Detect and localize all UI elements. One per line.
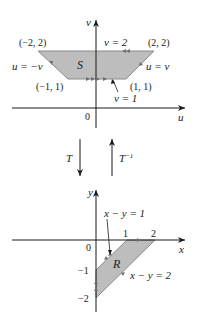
origin-label-uv: 0	[85, 111, 90, 122]
region-r-label: R	[112, 257, 121, 271]
edge-label-left: u = −v	[12, 60, 43, 72]
edge-label-lower: x − y = 2	[129, 269, 172, 281]
xy-plane: y x 0 R 1 2 −1 −2 x − y = 1 x − y = 2	[12, 186, 185, 312]
vertex-bottom-left: (−1, 1)	[36, 81, 63, 93]
edge-label-upper: x − y = 1	[103, 207, 145, 219]
x-axis-label: x	[178, 243, 184, 255]
u-axis-label: u	[178, 111, 184, 123]
t-label: T	[66, 152, 73, 164]
edge-label-right: u = v	[146, 60, 169, 72]
uv-plane: v u 0 S (−2, 2) (2, 2) (−1, 1) (1, 1) v …	[12, 16, 185, 128]
vertex-top-left: (−2, 2)	[19, 37, 46, 49]
xy1-pointer	[107, 219, 110, 253]
y-tick-neg1: −1	[78, 265, 89, 276]
v-axis-label: v	[86, 16, 91, 28]
x-tick-2: 2	[151, 228, 156, 239]
edge-label-bottom: v = 1	[114, 92, 137, 104]
origin-label-xy: 0	[86, 242, 91, 253]
x-tick-1: 1	[123, 228, 128, 239]
t-inverse-label: T−1	[119, 152, 133, 164]
edge-label-top: v = 2	[104, 36, 128, 48]
transform-arrows: T T−1	[66, 139, 133, 176]
change-of-variables-figure: v u 0 S (−2, 2) (2, 2) (−1, 1) (1, 1) v …	[0, 0, 202, 322]
y-axis-label: y	[87, 186, 93, 198]
y-tick-neg2: −2	[78, 293, 89, 304]
region-s-label: S	[77, 58, 83, 72]
vertex-top-right: (2, 2)	[148, 37, 170, 49]
